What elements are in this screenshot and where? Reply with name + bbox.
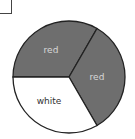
pie-chart: red red white	[0, 0, 135, 139]
slice-label-top: red	[44, 45, 59, 55]
slice-label-right: red	[90, 72, 105, 82]
slice-label-bottom: white	[37, 96, 62, 106]
